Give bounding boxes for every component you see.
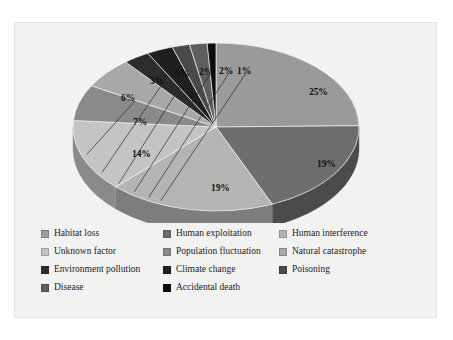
- pie-chart-svg: [15, 23, 436, 223]
- legend-swatch-icon: [41, 284, 49, 292]
- legend-label: Accidental death: [176, 282, 240, 293]
- legend-swatch-icon: [41, 248, 49, 256]
- legend-label: Habitat loss: [54, 228, 99, 239]
- legend-label: Poisoning: [292, 264, 330, 275]
- pie-percent-label: 19%: [317, 159, 336, 169]
- legend-label: Disease: [54, 282, 84, 293]
- legend-row: DiseaseAccidental death: [41, 282, 421, 300]
- legend-swatch-icon: [163, 248, 171, 256]
- chart-legend: Habitat lossHuman exploitationHuman inte…: [41, 228, 421, 300]
- legend-row: Habitat lossHuman exploitationHuman inte…: [41, 228, 421, 246]
- pie-percent-label: 3%: [150, 76, 164, 86]
- legend-label: Human interference: [292, 228, 368, 239]
- chart-panel: 25%19%19%14%7%6%3%3%2%2%1% Habitat lossH…: [14, 22, 437, 318]
- legend-swatch-icon: [279, 248, 287, 256]
- pie-percent-label: 6%: [121, 93, 135, 103]
- legend-swatch-icon: [163, 230, 171, 238]
- pie-percent-label: 7%: [133, 117, 147, 127]
- pie-percent-label: 25%: [309, 87, 328, 97]
- legend-row: Environment pollutionClimate changePoiso…: [41, 264, 421, 282]
- legend-swatch-icon: [163, 284, 171, 292]
- legend-item-habitat-loss[interactable]: Habitat loss: [41, 228, 163, 239]
- legend-label: Unknown factor: [54, 246, 116, 257]
- legend-item-population-fluctuation[interactable]: Population fluctuation: [163, 246, 279, 257]
- legend-item-human-exploitation[interactable]: Human exploitation: [163, 228, 279, 239]
- legend-label: Natural catastrophe: [292, 246, 366, 257]
- legend-item-poisoning[interactable]: Poisoning: [279, 264, 419, 275]
- pie-percent-label: 14%: [132, 149, 151, 159]
- legend-row: Unknown factorPopulation fluctuationNatu…: [41, 246, 421, 264]
- pie-slice: [216, 43, 359, 127]
- legend-swatch-icon: [41, 266, 49, 274]
- legend-swatch-icon: [279, 266, 287, 274]
- legend-label: Climate change: [176, 264, 235, 275]
- legend-swatch-icon: [163, 266, 171, 274]
- legend-swatch-icon: [41, 230, 49, 238]
- pie-percent-label: 2%: [199, 67, 213, 77]
- legend-swatch-icon: [279, 230, 287, 238]
- pie-percent-label: 3%: [175, 69, 189, 79]
- legend-item-climate-change[interactable]: Climate change: [163, 264, 279, 275]
- pie-percent-label: 2%: [219, 66, 233, 76]
- legend-label: Population fluctuation: [176, 246, 261, 257]
- legend-label: Environment pollution: [54, 264, 140, 275]
- pie-percent-label: 19%: [211, 183, 230, 193]
- legend-item-accidental-death[interactable]: Accidental death: [163, 282, 279, 293]
- pie-percent-label: 1%: [237, 66, 251, 76]
- legend-item-human-interference[interactable]: Human interference: [279, 228, 419, 239]
- pie-chart: 25%19%19%14%7%6%3%3%2%2%1%: [15, 23, 436, 223]
- legend-item-unknown-factor[interactable]: Unknown factor: [41, 246, 163, 257]
- legend-item-environment-pollution[interactable]: Environment pollution: [41, 264, 163, 275]
- legend-label: Human exploitation: [176, 228, 252, 239]
- legend-item-natural-catastrophe[interactable]: Natural catastrophe: [279, 246, 419, 257]
- legend-item-disease[interactable]: Disease: [41, 282, 163, 293]
- screenshot-root: 25%19%19%14%7%6%3%3%2%2%1% Habitat lossH…: [0, 0, 453, 340]
